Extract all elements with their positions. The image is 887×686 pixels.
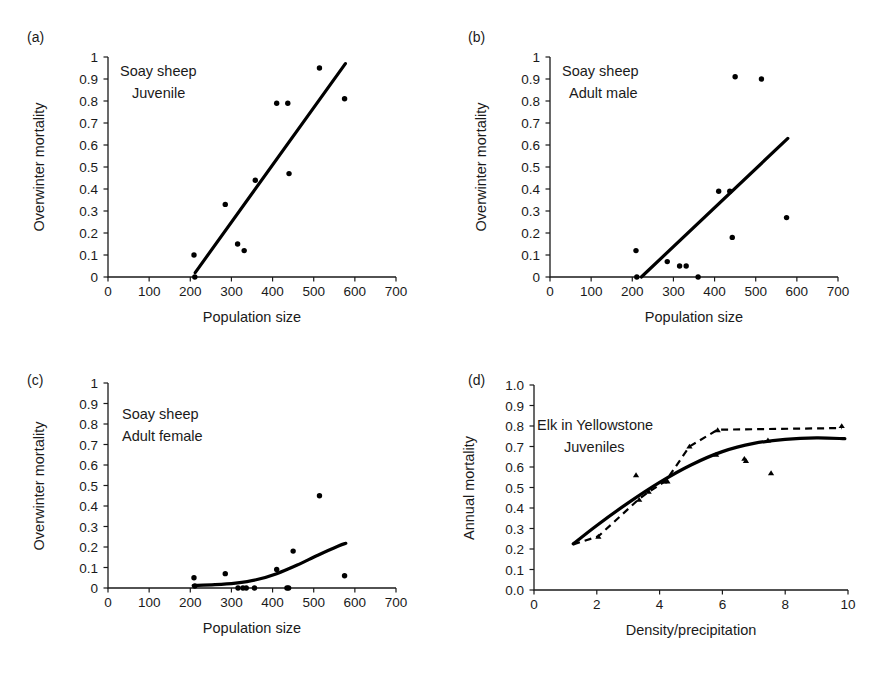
data-point-circle xyxy=(716,189,721,194)
x-axis-tick-label: 0 xyxy=(104,284,112,299)
panel-a-plot-area: 00.10.20.30.40.50.60.70.80.9101002003004… xyxy=(31,50,407,325)
y-axis-tick-label: 0.2 xyxy=(79,540,98,555)
y-axis-tick-label: 0.0 xyxy=(505,583,524,598)
data-point-circle xyxy=(191,252,196,257)
data-point-circle xyxy=(286,585,291,590)
y-axis-tick-label: 0.1 xyxy=(521,248,540,263)
data-point-triangle xyxy=(633,472,639,477)
panel-b-letter: (b) xyxy=(468,29,485,45)
panel-b-svg: (b) 00.10.20.30.40.50.60.70.80.910100200… xyxy=(444,0,887,343)
figure-multi-panel-mortality: (a) 00.10.20.30.40.50.60.70.80.910100200… xyxy=(0,0,887,686)
y-axis-tick-label: 0.3 xyxy=(79,520,98,535)
x-axis-tick-label: 200 xyxy=(621,284,644,299)
data-point-circle xyxy=(784,215,789,220)
x-axis-tick-label: 2 xyxy=(593,597,601,612)
data-point-circle xyxy=(274,101,279,106)
data-point-circle xyxy=(223,202,228,207)
y-axis-tick-label: 0.7 xyxy=(79,116,98,131)
y-axis-tick-label: 0.6 xyxy=(79,138,98,153)
data-point-triangle xyxy=(839,423,845,428)
data-point-circle xyxy=(732,74,737,79)
x-axis-tick-label: 400 xyxy=(703,284,726,299)
data-point-circle xyxy=(223,571,228,576)
x-axis-tick-label: 500 xyxy=(302,595,325,610)
x-axis-tick-label: 10 xyxy=(840,597,855,612)
y-axis-tick-label: 0.2 xyxy=(521,226,540,241)
panel-b: (b) 00.10.20.30.40.50.60.70.80.910100200… xyxy=(444,0,887,343)
panel-d: (d) 0.00.10.20.30.40.50.60.70.80.91.0024… xyxy=(444,343,887,686)
y-axis-tick-label: 0.2 xyxy=(505,542,524,557)
data-point-circle xyxy=(317,65,322,70)
y-axis-title: Overwinter mortality xyxy=(31,102,47,232)
data-point-circle xyxy=(665,259,670,264)
y-axis-tick-label: 0.8 xyxy=(79,417,98,432)
data-point-circle xyxy=(253,178,258,183)
x-axis-tick-label: 700 xyxy=(827,284,850,299)
y-axis-tick-label: 0 xyxy=(532,270,540,285)
y-axis-tick-label: 0.9 xyxy=(521,72,540,87)
y-axis-tick-label: 1 xyxy=(90,376,98,391)
panel-c-svg: (c) 00.10.20.30.40.50.60.70.80.910100200… xyxy=(0,343,443,686)
data-point-circle xyxy=(342,96,347,101)
y-axis-tick-label: 0.7 xyxy=(79,438,98,453)
y-axis-tick-label: 0 xyxy=(90,270,98,285)
y-axis-tick-label: 0.7 xyxy=(521,116,540,131)
y-axis-tick-label: 0.5 xyxy=(521,160,540,175)
panel-a-svg: (a) 00.10.20.30.40.50.60.70.80.910100200… xyxy=(0,0,443,343)
y-axis-title: Overwinter mortality xyxy=(473,102,489,232)
x-axis-tick-label: 0 xyxy=(104,595,112,610)
x-axis-tick-label: 300 xyxy=(662,284,685,299)
data-point-circle xyxy=(695,274,700,279)
x-axis-tick-label: 6 xyxy=(719,597,727,612)
panel-a: (a) 00.10.20.30.40.50.60.70.80.910100200… xyxy=(0,0,443,343)
fitted-curve xyxy=(193,543,346,585)
regression-line xyxy=(641,138,787,277)
y-axis-tick-label: 0.7 xyxy=(505,440,524,455)
y-axis-tick-label: 0.1 xyxy=(79,561,98,576)
panel-d-annotation-line2: Juveniles xyxy=(564,439,624,455)
x-axis-tick-label: 300 xyxy=(220,284,243,299)
y-axis-tick-label: 0.1 xyxy=(505,563,524,578)
y-axis-tick-label: 0.1 xyxy=(79,248,98,263)
y-axis-tick-label: 0.2 xyxy=(79,226,98,241)
panel-b-annotation-line1: Soay sheep xyxy=(562,63,639,79)
y-axis-tick-label: 1.0 xyxy=(505,378,524,393)
x-axis-tick-label: 700 xyxy=(385,595,408,610)
data-point-circle xyxy=(274,567,279,572)
x-axis-tick-label: 0 xyxy=(530,597,538,612)
y-axis-tick-label: 0.3 xyxy=(79,204,98,219)
panel-a-annotation-line1: Soay sheep xyxy=(120,63,197,79)
x-axis-tick-label: 200 xyxy=(179,595,202,610)
y-axis-tick-label: 0.8 xyxy=(505,419,524,434)
data-point-circle xyxy=(286,171,291,176)
y-axis-title: Annual mortality xyxy=(461,435,477,540)
x-axis-tick-label: 200 xyxy=(179,284,202,299)
data-point-circle xyxy=(285,101,290,106)
panel-c: (c) 00.10.20.30.40.50.60.70.80.910100200… xyxy=(0,343,443,686)
x-axis-title: Density/precipitation xyxy=(626,622,757,638)
data-point-circle xyxy=(235,585,240,590)
panel-c-letter: (c) xyxy=(27,372,43,388)
y-axis-tick-label: 0.4 xyxy=(79,182,98,197)
x-axis-title: Population size xyxy=(203,309,301,325)
data-point-circle xyxy=(683,263,688,268)
panel-c-annotation-line2: Adult female xyxy=(122,428,203,444)
y-axis-tick-label: 0.6 xyxy=(79,458,98,473)
data-point-circle xyxy=(759,76,764,81)
data-point-circle xyxy=(290,548,295,553)
y-axis-tick-label: 0.9 xyxy=(79,397,98,412)
y-axis-tick-label: 1 xyxy=(90,50,98,65)
y-axis-tick-label: 0.9 xyxy=(505,399,524,414)
panel-a-annotation-line2: Juvenile xyxy=(132,85,185,101)
x-axis-tick-label: 4 xyxy=(656,597,664,612)
y-axis-title: Overwinter mortality xyxy=(31,421,47,551)
x-axis-tick-label: 500 xyxy=(302,284,325,299)
y-axis-tick-label: 0.6 xyxy=(521,138,540,153)
x-axis-tick-label: 600 xyxy=(344,595,367,610)
y-axis-tick-label: 0.5 xyxy=(505,481,524,496)
data-point-triangle xyxy=(768,470,774,475)
data-point-circle xyxy=(634,274,639,279)
panel-a-letter: (a) xyxy=(27,29,44,45)
y-axis-tick-label: 0.8 xyxy=(79,94,98,109)
y-axis-tick-label: 0.3 xyxy=(505,522,524,537)
